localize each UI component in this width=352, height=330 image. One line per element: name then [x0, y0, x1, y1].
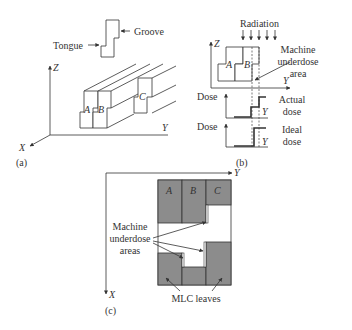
tongue-label: Tongue — [53, 40, 83, 51]
c-x-axis-label: X — [108, 289, 116, 300]
groove-label: Groove — [134, 26, 165, 37]
b-underdose-label-3: area — [290, 68, 307, 79]
z-axis-label: Z — [53, 62, 59, 73]
x-axis-label: X — [18, 142, 26, 153]
actual-dose-axis-label: Dose — [197, 91, 218, 102]
actual-dose-label-1: Actual — [279, 94, 306, 105]
actual-dose-label-2: dose — [283, 106, 302, 117]
panel-a: Groove Tongue Z Y X A B — [16, 20, 176, 169]
ideal-dose-axis-label: Dose — [197, 121, 218, 132]
panel-c-caption: (c) — [105, 305, 116, 317]
b-z-axis-label: Z — [214, 38, 220, 49]
leaf-a-bottom — [158, 253, 182, 285]
actual-dose-y-label: Y — [262, 106, 269, 117]
b-leaf-b-label: B — [244, 59, 250, 70]
leaf-a-label: A — [83, 104, 91, 115]
leaf-c-label: C — [139, 91, 146, 102]
mlc-leaves-3d: A B C — [80, 64, 176, 128]
leaf-c-bottom — [206, 242, 231, 285]
c-leaf-c-label: C — [214, 185, 221, 196]
b-underdose-label-1: Machine — [281, 44, 317, 55]
x-axis — [30, 135, 50, 146]
tongue-groove-profile — [101, 20, 119, 57]
radiation-label: Radiation — [240, 18, 279, 29]
c-leaf-b-label: B — [190, 185, 196, 196]
y-axis-label: Y — [162, 122, 169, 133]
figure: Groove Tongue Z Y X A B — [0, 0, 352, 330]
radiation-arrows — [243, 30, 275, 40]
ideal-dose-label-1: Ideal — [282, 124, 302, 135]
c-underdose-label-1: Machine — [113, 221, 149, 232]
leaf-b-bottom — [182, 267, 206, 285]
underdose-slit-bottom-2 — [204, 242, 206, 267]
ideal-dose-label-2: dose — [283, 136, 302, 147]
underdose-slit-bottom-1 — [182, 253, 184, 267]
underdose-slit-top — [206, 205, 208, 223]
panel-b: Radiation Z Y A B Machine underdose area… — [197, 18, 319, 169]
ideal-dose-y-label: Y — [262, 136, 269, 147]
c-underdose-label-2: underdose — [109, 233, 151, 244]
c-y-axis-label: Y — [234, 167, 241, 178]
c-leaf-a-label: A — [165, 185, 173, 196]
leaf-b-label: B — [98, 104, 104, 115]
panel-a-caption: (a) — [16, 157, 27, 169]
panel-c: Y X A B C Machine underdose areas MLC le… — [105, 167, 241, 317]
c-underdose-label-3: areas — [120, 245, 141, 256]
b-leaf-a-label: A — [225, 59, 233, 70]
mlc-leaves-label: MLC leaves — [171, 293, 220, 304]
